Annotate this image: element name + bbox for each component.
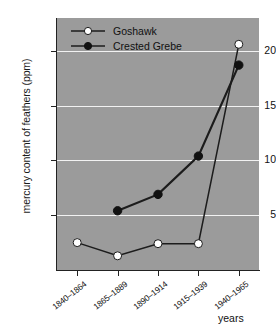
x-tick-label: 1915–1939 — [172, 279, 210, 312]
data-point-crested-grebe — [113, 207, 121, 215]
legend-label-crested-grebe: Crested Grebe — [113, 40, 182, 52]
legend-label-goshawk: Goshawk — [113, 25, 157, 37]
x-axis-title: years — [218, 312, 244, 324]
y-tick-mark — [51, 215, 56, 216]
data-point-crested-grebe — [235, 61, 243, 69]
data-point-goshawk — [114, 252, 122, 260]
x-tick-label: 1840–1864 — [51, 279, 89, 312]
mercury-feathers-line-chart: mercury content of feathers (ppm) 510152… — [0, 0, 276, 334]
y-tick-mark — [51, 51, 56, 52]
data-point-goshawk — [154, 240, 162, 248]
y-axis-title: mercury content of feathers (ppm) — [20, 36, 32, 236]
x-tick-mark — [158, 271, 159, 276]
series-line-goshawk — [77, 44, 239, 256]
x-tick-mark — [239, 271, 240, 276]
x-tick-mark — [198, 271, 199, 276]
data-point-goshawk — [194, 240, 202, 248]
x-tick-label: 1890–1914 — [131, 279, 169, 312]
legend-item-crested-grebe: Crested Grebe — [69, 38, 182, 53]
y-tick-mark — [51, 106, 56, 107]
legend-item-goshawk: Goshawk — [69, 23, 182, 38]
data-point-crested-grebe — [154, 190, 162, 198]
data-point-goshawk — [73, 239, 81, 247]
y-tick-mark — [51, 160, 56, 161]
series-layer — [57, 18, 259, 270]
series-line-crested-grebe — [118, 65, 239, 211]
x-tick-mark — [77, 271, 78, 276]
chart-legend: Goshawk Crested Grebe — [69, 23, 182, 53]
x-tick-label: 1940–1965 — [212, 279, 250, 312]
plot-area: Goshawk Crested Grebe — [57, 18, 259, 270]
x-tick-label: 1865–1889 — [91, 279, 129, 312]
legend-marker-open-circle-icon — [69, 24, 109, 38]
legend-marker-filled-circle-icon — [69, 39, 109, 53]
data-point-crested-grebe — [194, 152, 202, 160]
x-tick-mark — [118, 271, 119, 276]
data-point-goshawk — [235, 40, 243, 48]
